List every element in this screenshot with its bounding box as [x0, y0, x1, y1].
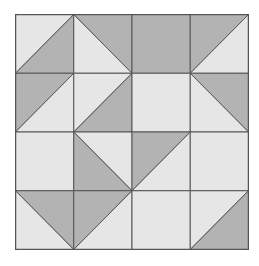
quilt-square-light: [190, 132, 248, 191]
quilt-svg: [15, 14, 249, 250]
quilt-square-dark: [132, 15, 190, 74]
quilt-square-light: [132, 73, 190, 132]
quilt-square-light: [132, 191, 190, 250]
quilt-grid: [15, 14, 249, 250]
quilt-square-light: [16, 132, 74, 191]
